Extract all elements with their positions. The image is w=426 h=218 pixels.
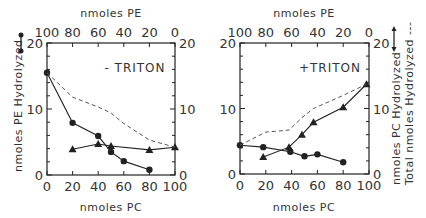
circle-marker [340,159,346,165]
figure: 0100208040606040802010000010102020 01002… [0,0,426,218]
y-tick-label: 0 [35,168,43,183]
circle-marker [69,120,75,126]
x2-tick-label: 40 [309,25,326,40]
left-y-axis-title: nmoles PE Hydrolyzed [12,40,25,172]
y-tick-label: 20 [219,36,236,51]
panel-minus-triton: 0100208040606040802010000010102020 [26,25,195,194]
y-tick-label: 10 [26,102,43,117]
x-tick-label: 0 [43,179,51,194]
x-tick-label: 60 [116,179,133,194]
circle-marker [301,153,307,159]
x2-tick-label: 80 [64,25,81,40]
y-tick-label: 10 [219,102,236,117]
circle-marker [260,144,266,150]
y2-tick-label: 10 [373,102,390,117]
circle-marker [314,151,320,157]
x-tick-label: 20 [64,179,81,194]
right-bottom-axis-title: nmoles PC [273,201,335,214]
circle-marker [146,167,152,173]
x-tick-label: 80 [335,178,352,193]
left-top-axis-title: nmoles PE [80,7,142,20]
y-tick-label: 20 [26,36,43,51]
x-tick-label: 60 [309,178,326,193]
x-tick-label: 20 [258,178,275,193]
x2-tick-label: 0 [171,25,179,40]
y2-tick-label: 0 [373,167,381,182]
right-panel-label: +TRITON [299,61,361,75]
x-tick-label: 0 [236,178,244,193]
pc-hydrolyzed-legend-icon [392,26,397,52]
left-bottom-axis-title: nmoles PC [80,201,142,214]
circle-marker [95,133,101,139]
x2-tick-label: 20 [335,25,352,40]
left-panel-label: - TRITON [104,61,165,75]
x-tick-label: 40 [90,179,107,194]
y2-tick-label: 10 [179,102,196,117]
y-tick-label: 0 [228,167,236,182]
circle-marker [121,158,127,164]
x2-tick-label: 0 [365,25,373,40]
triangle-marker [310,118,318,125]
x2-tick-label: 60 [283,25,300,40]
series-line [73,144,175,150]
y2-tick-label: 20 [179,36,196,51]
circle-marker [108,149,114,155]
right-y2-axis-title: Total nmoles Hydrolyzed --- [403,22,416,186]
x2-tick-label: 60 [90,25,107,40]
y2-tick-label: 20 [373,36,390,51]
y2-tick-label: 0 [179,168,187,183]
x-tick-label: 80 [141,179,158,194]
right-y-axis-title: nmoles PC Hydrolyzed [390,52,403,185]
x2-tick-label: 20 [141,25,158,40]
x2-tick-label: 40 [116,25,133,40]
right-top-axis-title: nmoles PE [273,7,335,20]
triangle-marker [94,140,102,147]
x-tick-label: 40 [283,178,300,193]
x2-tick-label: 80 [258,25,275,40]
panel-plus-triton: 0100208040606040802010000010102020 [219,25,389,193]
